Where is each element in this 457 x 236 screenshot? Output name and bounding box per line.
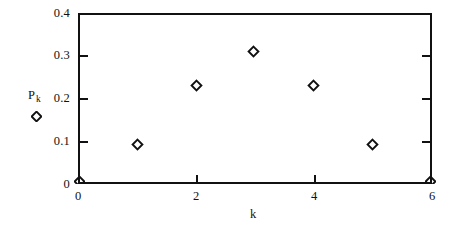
y-tick-0.1 [78, 141, 88, 143]
data-point-k3 [248, 46, 259, 57]
data-point-k1 [132, 139, 143, 150]
y-axis-title-main: P [28, 88, 35, 102]
x-tick-label-2: 4 [299, 190, 329, 203]
y-tick-0.2 [78, 98, 88, 100]
x-tick-4 [314, 175, 316, 184]
x-tick-2 [196, 175, 198, 184]
y-tick-right-0.2 [422, 98, 432, 100]
y-tick-label-4: 0 [30, 178, 70, 191]
x-tick-label-3: 6 [417, 190, 447, 203]
data-point-k5 [367, 139, 378, 150]
data-point-k0 [74, 173, 85, 184]
x-axis-title: k [238, 208, 268, 221]
y-tick-label-1: 0.3 [30, 49, 70, 62]
stray-diamond-marker [31, 108, 42, 119]
y-tick-label-0: 0.4 [30, 7, 70, 20]
chart-figure: 0.4 0.3 0.2 0.1 0 0 2 4 6 Pk k [0, 0, 457, 236]
y-tick-0.4 [78, 13, 88, 15]
plot-frame [78, 13, 432, 184]
data-point-k2 [191, 80, 202, 91]
y-tick-right-0.1 [422, 141, 432, 143]
y-tick-0.3 [78, 55, 88, 57]
x-tick-label-0: 0 [63, 190, 93, 203]
y-axis-title-subscript: k [36, 94, 41, 104]
y-axis-title: Pk [28, 89, 40, 103]
data-point-k6 [425, 173, 436, 184]
y-tick-right-0.3 [422, 55, 432, 57]
data-point-k4 [308, 80, 319, 91]
x-tick-label-1: 2 [181, 190, 211, 203]
y-tick-label-3: 0.1 [30, 135, 70, 148]
